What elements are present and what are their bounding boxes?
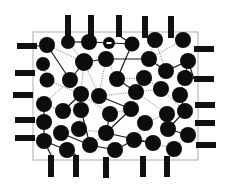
node-33 — [160, 121, 176, 137]
node-12 — [180, 53, 196, 69]
node-26 — [102, 106, 118, 122]
node-marker — [107, 42, 112, 44]
electrode-left-4 — [15, 117, 35, 123]
node-30 — [36, 114, 52, 130]
node-2 — [81, 34, 97, 50]
node-21 — [153, 81, 169, 97]
node-36 — [98, 125, 114, 141]
node-7 — [36, 57, 50, 71]
electrode-left-1 — [17, 43, 37, 49]
electrode-bottom-5 — [164, 156, 170, 177]
node-10 — [141, 51, 157, 67]
node-34 — [180, 127, 196, 143]
node-16 — [136, 70, 152, 86]
node-32 — [137, 115, 153, 131]
node-19 — [91, 88, 107, 104]
electrode-top-5 — [168, 16, 174, 38]
node-37 — [126, 132, 142, 148]
node-14 — [62, 72, 78, 88]
electrode-left-2 — [15, 70, 35, 76]
node-39 — [59, 142, 75, 158]
electrode-bottom-1 — [48, 155, 54, 177]
node-18 — [73, 86, 89, 102]
electrode-right-1 — [194, 46, 214, 52]
node-41 — [107, 142, 123, 158]
node-5 — [147, 32, 163, 48]
electrode-right-4 — [195, 120, 215, 126]
electrode-top-4 — [142, 16, 148, 38]
node-22 — [172, 87, 188, 103]
node-13 — [40, 73, 55, 88]
node-29 — [177, 103, 193, 119]
electrode-top-3 — [116, 15, 122, 37]
electrode-right-2 — [194, 76, 214, 82]
node-6 — [175, 32, 191, 48]
electrode-left-5 — [15, 135, 35, 141]
node-23 — [36, 96, 52, 112]
electrode-left-3 — [13, 92, 33, 98]
electrode-top-2 — [88, 15, 94, 37]
node-8 — [75, 53, 93, 71]
node-43 — [166, 141, 182, 157]
node-11 — [158, 63, 174, 79]
node-4 — [125, 37, 140, 52]
node-25 — [73, 102, 89, 118]
node-0 — [39, 37, 55, 53]
electrode-right-5 — [196, 142, 216, 148]
node-28 — [159, 106, 175, 122]
node-17 — [177, 70, 193, 86]
network-diagram — [0, 0, 227, 186]
node-1 — [61, 35, 75, 49]
node-38 — [36, 133, 52, 149]
electrode-bottom-2 — [73, 155, 79, 177]
electrode-top-1 — [65, 15, 71, 37]
node-31 — [71, 121, 87, 137]
node-40 — [82, 137, 98, 153]
electrode-bottom-4 — [140, 156, 146, 177]
electrode-right-3 — [195, 102, 215, 108]
node-9 — [98, 51, 114, 67]
node-15 — [109, 71, 125, 87]
electrode-bottom-3 — [103, 157, 109, 178]
node-35 — [53, 125, 69, 141]
node-27 — [123, 101, 139, 117]
node-20 — [128, 84, 144, 100]
node-24 — [55, 103, 71, 119]
node-42 — [145, 135, 161, 151]
